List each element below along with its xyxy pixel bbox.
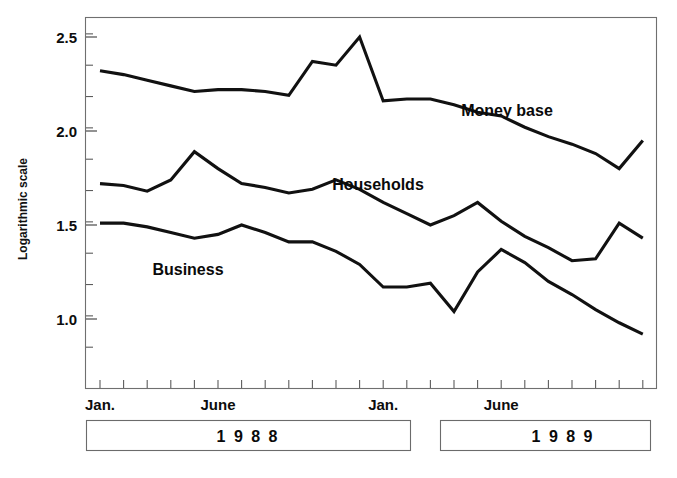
series-annotation-money-base: Money base <box>461 102 553 119</box>
y-tick-label: 2.0 <box>56 123 77 140</box>
x-tick-label: June <box>484 396 519 413</box>
y-tick-label: 1.5 <box>56 217 77 234</box>
line-chart-svg: Logarithmic scale 1.01.52.02.5 Jan.JuneJ… <box>0 0 677 478</box>
y-axis-title: Logarithmic scale <box>16 158 30 260</box>
x-tick-label: Jan. <box>368 396 398 413</box>
year-label-1988: 1 9 8 8 <box>217 428 280 445</box>
chart-figure: Logarithmic scale 1.01.52.02.5 Jan.JuneJ… <box>0 0 677 478</box>
x-tick-label: Jan. <box>85 396 115 413</box>
series-annotation-households: Households <box>332 176 424 193</box>
y-tick-label: 1.0 <box>56 311 77 328</box>
year-label-1989: 1 9 8 9 <box>532 428 595 445</box>
y-tick-label: 2.5 <box>56 29 77 46</box>
series-annotation-business: Business <box>152 261 223 278</box>
x-tick-label: June <box>200 396 235 413</box>
